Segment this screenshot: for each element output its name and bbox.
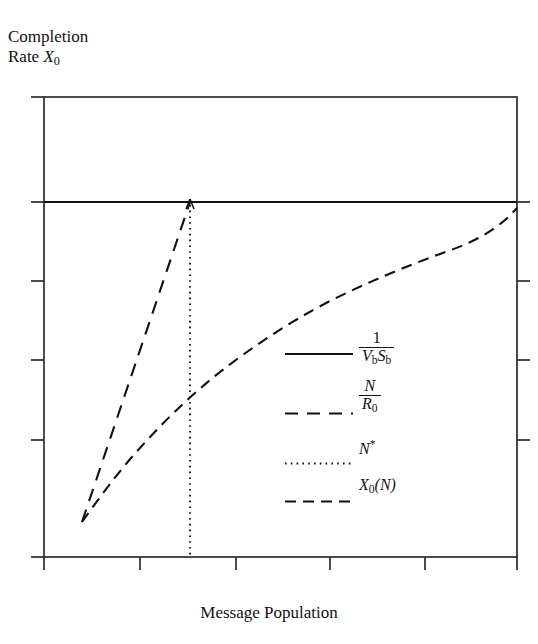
fraction-one-over-vbsb: 1 VbSb bbox=[359, 330, 394, 366]
legend-label-threshold: 1 VbSb bbox=[359, 330, 394, 366]
y-axis-label-line1: Completion bbox=[8, 27, 88, 46]
legend-swatch-short-dash-line bbox=[285, 489, 353, 491]
legend-item-x0-of-n: X0(N) bbox=[281, 473, 481, 513]
legend-swatch-solid-line bbox=[285, 353, 353, 355]
n-star-variable: N bbox=[359, 440, 370, 457]
y-axis-label-variable: X bbox=[43, 47, 53, 66]
legend-label-x0-of-n: X0(N) bbox=[359, 476, 396, 495]
legend-item-threshold: 1 VbSb bbox=[281, 336, 481, 376]
chart-figure bbox=[0, 0, 538, 644]
denominator-s: S bbox=[378, 347, 386, 364]
denominator-v: V bbox=[362, 347, 372, 364]
legend-label-n-over-r0: N R0 bbox=[359, 378, 381, 414]
legend-item-n-star: N* bbox=[281, 435, 481, 475]
denominator-r: R bbox=[362, 395, 372, 412]
y-axis-label-line2-prefix: Rate bbox=[8, 47, 43, 66]
y-axis-label: CompletionRate X0 bbox=[8, 27, 88, 69]
fraction-n-over-r0: N R0 bbox=[359, 378, 381, 414]
x0-argument: (N) bbox=[375, 476, 396, 493]
legend-label-n-star: N* bbox=[359, 438, 375, 458]
legend-item-n-over-r0: N R0 bbox=[281, 384, 481, 424]
fraction-denominator: VbSb bbox=[359, 348, 394, 366]
denominator-s-subscript: b bbox=[386, 354, 392, 366]
fraction-denominator: R0 bbox=[359, 396, 381, 414]
n-star-superscript: * bbox=[370, 438, 376, 450]
x0-variable: X bbox=[359, 476, 369, 493]
fraction-numerator: 1 bbox=[359, 330, 394, 348]
legend-swatch-long-dash-svg bbox=[285, 412, 353, 415]
x-axis-label: Message Population bbox=[0, 603, 538, 623]
legend-swatch-long-dash-line bbox=[285, 401, 353, 403]
y-axis-label-subscript: 0 bbox=[54, 54, 60, 68]
fraction-numerator: N bbox=[359, 378, 381, 396]
legend-swatch-dotted-svg bbox=[285, 462, 353, 465]
numerator-n: N bbox=[364, 377, 375, 394]
chart-legend: 1 VbSb N R0 N* bbox=[281, 336, 481, 502]
legend-swatch-short-dash-svg bbox=[285, 500, 353, 503]
denominator-r-subscript: 0 bbox=[372, 402, 378, 414]
legend-swatch-dotted-line bbox=[285, 451, 353, 453]
